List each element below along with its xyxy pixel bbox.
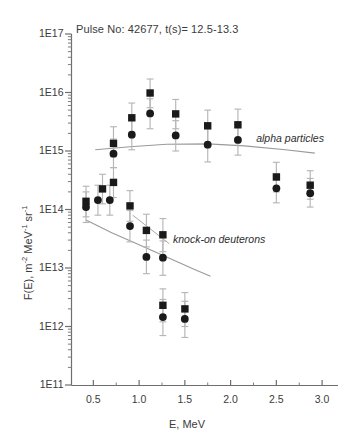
data-point-circle (159, 313, 167, 321)
annotation-leader-line (133, 215, 170, 244)
data-point-circle (306, 189, 314, 197)
data-point-square (143, 227, 150, 234)
x-axis-ticks (93, 380, 322, 386)
x-tick-label: 1.5 (165, 393, 205, 405)
data-point-circle (110, 150, 118, 158)
y-axis-title-exp2: -1 (20, 224, 29, 231)
chart-annotation: alpha particles (256, 132, 324, 144)
data-point-square (99, 185, 106, 192)
data-point-circle (234, 136, 242, 144)
y-tick-label: 1E12 (20, 320, 64, 332)
x-tick-label: 0.5 (73, 393, 113, 405)
data-point-square (146, 89, 153, 96)
error-bars (83, 185, 189, 337)
data-point-square (110, 179, 117, 186)
data-point-square (204, 122, 211, 129)
y-tick-label: 1E11 (20, 378, 64, 390)
data-series-circle (110, 110, 315, 198)
data-point-circle (94, 196, 102, 204)
data-point-square (234, 121, 241, 128)
y-tick-label: 1E13 (20, 261, 64, 273)
data-point-circle (126, 222, 134, 230)
data-point-circle (128, 131, 136, 139)
y-tick-label: 1E14 (20, 203, 64, 215)
data-point-circle (204, 141, 212, 149)
data-point-circle (82, 203, 90, 211)
data-point-square (128, 114, 135, 121)
data-point-circle (181, 315, 189, 323)
y-axis-title-mid: MeV (22, 231, 34, 257)
data-point-circle (159, 254, 167, 262)
y-tick-label: 1E15 (20, 144, 64, 156)
x-tick-label: 2.5 (256, 393, 296, 405)
data-point-circle (146, 110, 154, 118)
data-point-square (126, 202, 133, 209)
data-point-square (172, 110, 179, 117)
data-point-square (159, 302, 166, 309)
x-tick-label: 1.0 (119, 393, 159, 405)
x-axis-title: E, MeV (169, 418, 205, 430)
x-tick-label: 2.0 (211, 393, 251, 405)
data-point-circle (172, 132, 180, 140)
x-tick-label: 3.0 (302, 393, 342, 405)
axis-lines (72, 34, 339, 386)
y-axis-ticks (65, 34, 72, 385)
data-point-square (307, 182, 314, 189)
data-point-circle (273, 184, 281, 192)
error-bars (110, 99, 314, 207)
data-point-square (110, 140, 117, 147)
y-tick-label: 1E17 (20, 27, 64, 39)
data-point-circle (106, 196, 114, 204)
data-point-square (273, 173, 280, 180)
chart-annotation: knock-on deuterons (173, 233, 265, 245)
chart-title: Pulse No: 42677, t(s)= 12.5-13.3 (76, 23, 239, 35)
y-tick-label: 1E16 (20, 86, 64, 98)
data-point-square (159, 231, 166, 238)
data-point-square (181, 305, 188, 312)
data-point-circle (143, 253, 151, 261)
